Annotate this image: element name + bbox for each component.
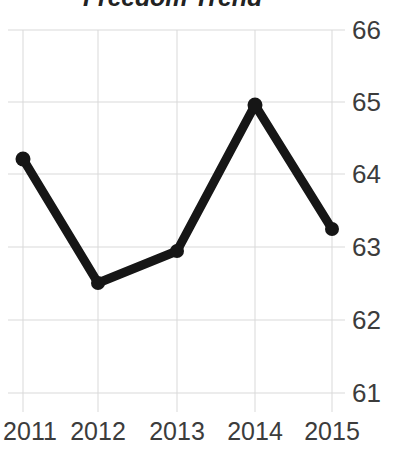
x-axis-tick-2011: 2011 bbox=[0, 419, 68, 444]
data-point-2011 bbox=[16, 152, 31, 167]
y-axis-tick-61: 61 bbox=[352, 380, 396, 406]
x-axis-tick-2015: 2015 bbox=[294, 419, 370, 444]
y-axis-tick-65: 65 bbox=[352, 89, 396, 115]
y-axis-tick-66: 66 bbox=[352, 17, 396, 43]
y-axis-tick-62: 62 bbox=[352, 307, 396, 333]
y-axis-tick-63: 63 bbox=[352, 234, 396, 260]
y-axis-tick-64: 64 bbox=[352, 161, 396, 187]
chart-container: Freedom Trend 66 bbox=[0, 0, 398, 456]
x-axis-tick-2013: 2013 bbox=[139, 419, 215, 444]
data-point-2014 bbox=[248, 98, 263, 113]
vertical-gridlines bbox=[23, 30, 332, 412]
data-point-2015 bbox=[325, 222, 339, 236]
x-axis-tick-2014: 2014 bbox=[217, 419, 293, 444]
data-point-2013 bbox=[170, 244, 184, 258]
x-axis-tick-2012: 2012 bbox=[60, 419, 136, 444]
plot-area bbox=[0, 0, 398, 456]
data-point-2012 bbox=[91, 276, 105, 290]
